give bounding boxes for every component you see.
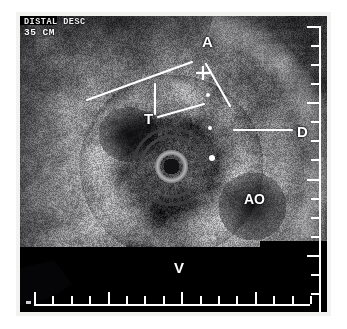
- ruler-spine-vertical: [319, 26, 321, 312]
- ruler-tick-vertical: [307, 179, 319, 181]
- depth-ruler-vertical: [308, 26, 321, 312]
- ruler-tick-horizontal: [144, 296, 146, 304]
- ruler-tick-vertical: [311, 83, 319, 85]
- ruler-tick-horizontal: [181, 292, 183, 304]
- ruler-tick-horizontal: [71, 296, 73, 304]
- depth-ruler-horizontal: [34, 293, 310, 306]
- tissue-speckle-canvas: [20, 16, 327, 312]
- ruler-tick-horizontal: [126, 296, 128, 304]
- ruler-tick-vertical: [311, 159, 319, 161]
- ruler-tick-horizontal: [310, 296, 312, 304]
- ruler-tick-vertical: [311, 140, 319, 142]
- ruler-tick-horizontal: [89, 296, 91, 304]
- scan-frame-bezel: DISTAL DESC 35 CM A T D AO V: [16, 12, 331, 316]
- ruler-tick-vertical: [311, 274, 319, 276]
- ultrasound-scan-field: DISTAL DESC 35 CM A T D AO V: [20, 16, 327, 312]
- ruler-tick-horizontal: [163, 296, 165, 304]
- ruler-spine-horizontal: [34, 304, 310, 306]
- ruler-tick-vertical: [311, 45, 319, 47]
- ruler-tick-horizontal: [34, 292, 36, 304]
- ruler-tick-horizontal: [200, 296, 202, 304]
- ruler-tick-vertical: [307, 102, 319, 104]
- ruler-tick-vertical: [311, 236, 319, 238]
- ultrasound-screenshot: DISTAL DESC 35 CM A T D AO V: [0, 0, 347, 329]
- ruler-tick-vertical: [311, 121, 319, 123]
- ruler-tick-vertical: [311, 217, 319, 219]
- ruler-tick-vertical: [307, 255, 319, 257]
- ruler-tick-vertical: [311, 64, 319, 66]
- ruler-tick-horizontal: [236, 296, 238, 304]
- ruler-tick-horizontal: [108, 292, 110, 304]
- ruler-tick-horizontal: [292, 296, 294, 304]
- ruler-tick-vertical: [311, 293, 319, 295]
- ruler-tick-vertical: [311, 198, 319, 200]
- ruler-tick-horizontal: [218, 296, 220, 304]
- ruler-tick-horizontal: [273, 296, 275, 304]
- ruler-tick-vertical: [307, 26, 319, 28]
- corner-reference-mark: [26, 301, 31, 304]
- ruler-tick-horizontal: [52, 296, 54, 304]
- ruler-tick-horizontal: [255, 292, 257, 304]
